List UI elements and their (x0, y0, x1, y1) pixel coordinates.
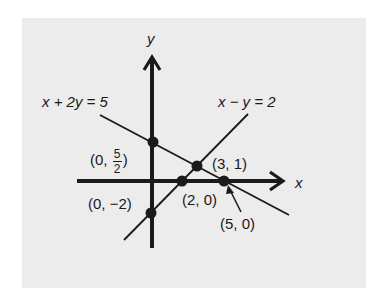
coordinate-plane (0, 0, 376, 298)
fraction-numerator: 5 (114, 148, 121, 160)
fraction-5-over-2: 5 2 (113, 148, 122, 175)
line2-label: x − y = 2 (218, 94, 276, 109)
point-label-3-1: (3, 1) (212, 156, 247, 171)
point-0-neg2 (146, 208, 157, 219)
point-label-0-5-2: (0, 5 2 ) (90, 148, 128, 175)
fraction-denominator: 2 (114, 163, 121, 175)
point-label-prefix: (0, (90, 151, 108, 168)
point-label-0-neg2: (0, −2) (88, 196, 132, 211)
x-axis-label: x (295, 175, 303, 190)
point-label-2-0: (2, 0) (182, 192, 217, 207)
point-5-0 (219, 176, 230, 187)
point-label-5-0: (5, 0) (220, 216, 255, 231)
point-label-suffix: ) (123, 151, 128, 168)
pointer-arrowhead-icon (226, 185, 234, 194)
line1-label: x + 2y = 5 (42, 94, 108, 109)
point-0-5-2 (148, 137, 159, 148)
pointer-arrow-5-0 (230, 190, 241, 212)
y-axis-label: y (147, 31, 155, 46)
point-2-0 (177, 176, 188, 187)
point-3-1 (192, 161, 203, 172)
